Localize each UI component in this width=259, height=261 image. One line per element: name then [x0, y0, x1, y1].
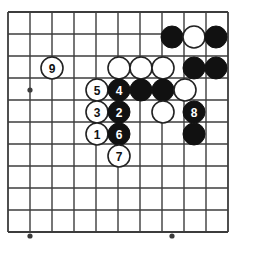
stone-white[interactable] [183, 26, 205, 48]
black-stone-icon [130, 79, 152, 101]
stone-white[interactable] [174, 79, 196, 101]
go-board-diagram: 954328167 [0, 0, 259, 261]
stone-white[interactable] [108, 57, 130, 79]
white-stone-icon [152, 57, 174, 79]
black-stone-icon [205, 57, 227, 79]
stone-move-9[interactable]: 9 [41, 57, 63, 79]
stone-black[interactable] [161, 26, 183, 48]
white-stone-icon [130, 57, 152, 79]
stone-move-7[interactable]: 7 [108, 145, 130, 167]
stone-move-number: 5 [94, 84, 101, 98]
stone-black[interactable] [152, 79, 174, 101]
stone-move-6[interactable]: 6 [108, 123, 130, 145]
stone-black[interactable] [205, 57, 227, 79]
black-stone-icon [152, 79, 174, 101]
star-point [27, 233, 32, 238]
star-point [169, 233, 174, 238]
black-stone-icon [183, 123, 205, 145]
stone-black[interactable] [183, 57, 205, 79]
stone-move-number: 9 [49, 62, 56, 76]
stone-move-number: 8 [191, 106, 198, 120]
stone-white[interactable] [152, 101, 174, 123]
stone-move-1[interactable]: 1 [86, 123, 108, 145]
stone-move-number: 6 [116, 128, 123, 142]
stone-move-number: 2 [116, 106, 123, 120]
stone-white[interactable] [130, 57, 152, 79]
stone-move-number: 4 [116, 84, 123, 98]
stone-black[interactable] [205, 26, 227, 48]
black-stone-icon [161, 26, 183, 48]
go-board-canvas[interactable]: 954328167 [0, 0, 259, 261]
stone-move-4[interactable]: 4 [108, 79, 130, 101]
stone-move-number: 7 [116, 150, 123, 164]
white-stone-icon [152, 101, 174, 123]
stone-white[interactable] [152, 57, 174, 79]
stone-black[interactable] [183, 123, 205, 145]
white-stone-icon [174, 79, 196, 101]
black-stone-icon [205, 26, 227, 48]
stone-move-number: 1 [94, 128, 101, 142]
black-stone-icon [183, 57, 205, 79]
stone-black[interactable] [130, 79, 152, 101]
white-stone-icon [108, 57, 130, 79]
star-point [27, 87, 32, 92]
white-stone-icon [183, 26, 205, 48]
stone-move-number: 3 [94, 106, 101, 120]
stone-move-3[interactable]: 3 [86, 101, 108, 123]
stone-move-5[interactable]: 5 [86, 79, 108, 101]
stone-move-8[interactable]: 8 [183, 101, 205, 123]
stone-move-2[interactable]: 2 [108, 101, 130, 123]
